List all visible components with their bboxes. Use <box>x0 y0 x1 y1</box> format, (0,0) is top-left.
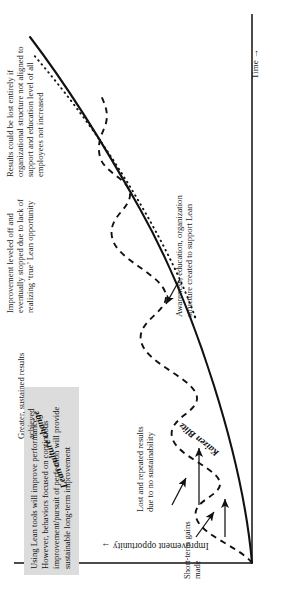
annotation-awareness-education: Awareness, education, organization struc… <box>175 165 195 317</box>
lean-improvement-chart: Using Lean tools will improve performanc… <box>0 0 290 609</box>
figure-page: Using Lean tools will improve performanc… <box>0 0 290 609</box>
annotation-greater-sustained-results: Greater, sustained results achieved <box>17 343 37 439</box>
x-axis-title-group: Time → <box>250 49 260 79</box>
annotation-results-could-be-lost: Results could be lost entirely if organi… <box>6 27 46 177</box>
y-axis-title-group: Improvement opportunity → <box>80 541 230 551</box>
annotation-improvement-leveled-off: Improvement leveled off and eventually s… <box>6 178 36 313</box>
y-axis-label: Improvement opportunity <box>113 541 209 551</box>
arrow-lost-1 <box>172 478 186 505</box>
series-kaizen-blitz <box>99 93 252 563</box>
rotated-figure-wrapper: Using Lean tools will improve performanc… <box>0 0 290 609</box>
y-axis-arrow-icon: → <box>101 541 110 551</box>
series-results-lost <box>32 53 195 317</box>
annotation-lost-and-repeated-results: Lost and repeated results due to no sust… <box>136 412 156 512</box>
x-axis-arrow-icon: → <box>250 49 260 58</box>
x-axis-label: Time <box>250 60 260 79</box>
